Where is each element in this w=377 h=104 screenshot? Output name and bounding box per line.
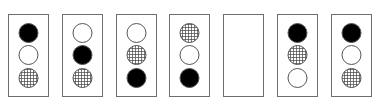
black-circle-icon <box>288 24 307 43</box>
hatch-circle-icon <box>19 69 38 88</box>
white-circle-icon <box>127 24 146 43</box>
hatch-circle-icon <box>73 69 92 88</box>
hatch-circle-icon <box>288 46 307 65</box>
white-circle-icon <box>19 46 38 65</box>
hatch-circle-icon <box>342 69 361 88</box>
light-panel <box>277 14 318 97</box>
lights-svg <box>9 15 48 96</box>
light-panel <box>8 14 49 97</box>
white-circle-icon <box>342 46 361 65</box>
white-circle-icon <box>73 24 92 43</box>
black-circle-icon <box>180 69 199 88</box>
missing-panel <box>223 14 264 97</box>
hatch-circle-icon <box>180 24 199 43</box>
white-circle-icon <box>180 46 199 65</box>
lights-svg <box>63 15 102 96</box>
light-panel <box>169 14 210 97</box>
black-circle-icon <box>19 24 38 43</box>
light-panel <box>62 14 103 97</box>
lights-svg <box>278 15 317 96</box>
light-panel <box>116 14 157 97</box>
lights-svg <box>332 15 371 96</box>
lights-svg <box>117 15 156 96</box>
light-panel <box>331 14 372 97</box>
black-circle-icon <box>342 24 361 43</box>
hatch-circle-icon <box>127 46 146 65</box>
lights-svg <box>170 15 209 96</box>
black-circle-icon <box>127 69 146 88</box>
lights-svg <box>224 15 263 96</box>
black-circle-icon <box>73 46 92 65</box>
white-circle-icon <box>288 69 307 88</box>
